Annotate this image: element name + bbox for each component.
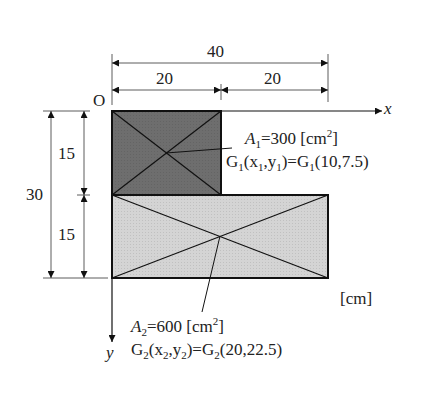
dim-top-right-width: 20 <box>264 70 281 87</box>
y-axis-label: y <box>106 344 114 361</box>
x-axis-label: x <box>384 100 392 117</box>
dim-total-width: 40 <box>207 43 224 60</box>
left-dimensions <box>43 111 108 278</box>
origin-label: O <box>93 92 105 109</box>
a2-area-label: A2=600 [cm2] <box>131 316 224 338</box>
a2-centroid-label: G2(x2,y2)=G2(20,22.5) <box>131 341 282 361</box>
a1-area-label: A1=300 [cm2] <box>245 128 338 150</box>
units-label: [cm] <box>340 290 372 307</box>
dim-upper-height: 15 <box>58 145 75 162</box>
a1-centroid-label: G1(x1,y1)=G1(10,7.5) <box>226 153 369 173</box>
dim-top-left-width: 20 <box>156 70 173 87</box>
dim-lower-height: 15 <box>58 226 75 243</box>
top-dimensions <box>112 54 328 105</box>
dim-total-height: 30 <box>26 186 43 203</box>
